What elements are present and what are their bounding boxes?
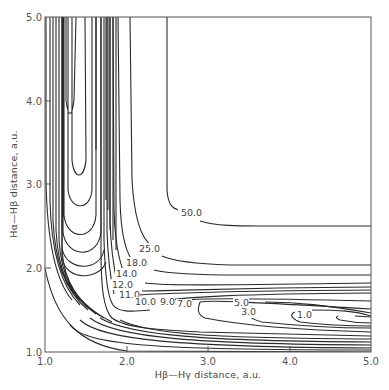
contour-label-10: 10.0: [135, 296, 156, 307]
contour-label-9: 9.0: [160, 296, 175, 307]
x-tick-5: 5.0: [363, 356, 379, 367]
y-axis-title: Hα—Hβ distance, a.u.: [8, 130, 19, 237]
x-tick-2: 2.0: [119, 356, 135, 367]
y-tick-labels: 1.0 2.0 3.0 4.0 5.0: [26, 12, 42, 358]
contour-1: [336, 316, 371, 323]
contour-label-3: 3.0: [241, 306, 256, 317]
contour-lines: [45, 17, 371, 352]
y-tick-2: 2.0: [26, 263, 42, 274]
y-tick-3: 3.0: [26, 179, 42, 190]
y-tick-5: 5.0: [26, 12, 42, 23]
contour-18: [118, 17, 371, 275]
y-tick-1: 1.0: [26, 347, 42, 358]
x-tick-4: 4.0: [282, 356, 298, 367]
contour-label-1: 1.0: [297, 309, 312, 320]
contour-left-wells: [62, 17, 106, 276]
contour-9: [101, 17, 371, 336]
contour-label-25: 25.0: [139, 243, 160, 254]
contour-label-7: 7.0: [177, 298, 192, 309]
x-tick-3: 3.0: [200, 356, 216, 367]
contour-label-50: 50.0: [181, 207, 202, 218]
contour-50: [167, 17, 371, 226]
contour-lower-band: [70, 318, 371, 350]
contour-label-14: 14.0: [116, 268, 137, 279]
contour-25: [130, 17, 371, 265]
x-axis-title: Hβ—Hγ distance, a.u.: [155, 369, 262, 380]
contour-label-18: 18.0: [126, 257, 147, 268]
y-tick-4: 4.0: [26, 96, 42, 107]
x-tick-labels: 1.0 2.0 3.0 4.0 5.0: [37, 356, 379, 367]
contour-chart: 1.0 2.0 3.0 4.0 5.0 1.0 2.0 3.0 4.0 5.0 …: [0, 0, 389, 390]
